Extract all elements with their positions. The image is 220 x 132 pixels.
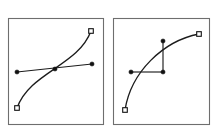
handle-horizontal-control-right[interactable] — [129, 70, 133, 74]
handle-right-control-left[interactable] — [90, 62, 94, 66]
handle-left-control-left[interactable] — [15, 70, 19, 74]
figure-canvas — [0, 0, 220, 132]
curve-end-anchor-right[interactable] — [197, 32, 202, 37]
junction-anchor-right[interactable] — [161, 70, 165, 74]
panel-right — [114, 19, 210, 125]
handle-vertical-control-right[interactable] — [161, 39, 165, 43]
curve-start-anchor-left[interactable] — [15, 106, 20, 111]
panel-left — [9, 19, 104, 125]
curve-end-anchor-left[interactable] — [89, 29, 94, 34]
bezier-continuity-figure — [0, 0, 220, 132]
curve-start-anchor-right[interactable] — [123, 108, 128, 113]
junction-anchor-left[interactable] — [53, 67, 57, 71]
